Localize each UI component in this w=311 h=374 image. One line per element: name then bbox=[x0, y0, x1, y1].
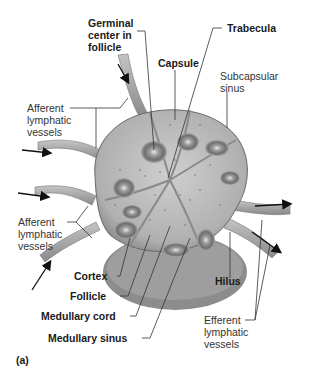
label-cortex: Cortex bbox=[74, 270, 107, 282]
label-medullary-cord: Medullary cord bbox=[41, 310, 116, 322]
label-follicle: Follicle bbox=[70, 290, 106, 302]
panel-label: (a) bbox=[16, 354, 29, 366]
label-afferent-bottom: Afferent lymphatic vessels bbox=[18, 216, 62, 252]
label-subcapsular-sinus: Subcapsular sinus bbox=[220, 70, 278, 94]
label-germinal-center: Germinal center in follicle bbox=[88, 17, 134, 53]
label-afferent-top: Afferent lymphatic vessels bbox=[27, 102, 71, 138]
label-capsule: Capsule bbox=[158, 57, 199, 69]
label-efferent: Efferent lymphatic vessels bbox=[204, 314, 248, 350]
label-hilus: Hilus bbox=[215, 275, 241, 287]
label-trabecula: Trabecula bbox=[227, 22, 276, 34]
label-medullary-sinus: Medullary sinus bbox=[48, 332, 127, 344]
lymph-node-body bbox=[95, 110, 248, 257]
lymph-node-diagram: Germinal center in follicle Trabecula Ca… bbox=[0, 0, 311, 374]
